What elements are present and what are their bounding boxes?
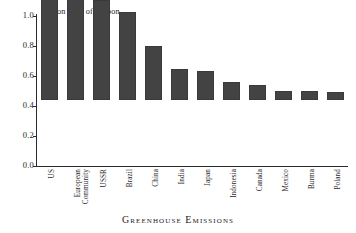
bar: [41, 0, 58, 100]
x-axis-tick-label: China: [153, 169, 161, 187]
bar: [67, 0, 84, 100]
bar: [145, 46, 162, 100]
x-axis-tick-label: USSR: [101, 169, 109, 187]
x-axis-tick-label: Mexico: [283, 169, 291, 192]
x-axis-tick-label: Poland: [335, 169, 343, 190]
x-axis-tick-label: Japan: [205, 169, 213, 186]
y-axis-tick-label: 0.8: [0, 41, 34, 50]
x-axis-tick-label: India: [179, 169, 187, 184]
bar: [275, 91, 292, 100]
y-axis-tick-label: 0.0: [0, 161, 34, 170]
x-axis-tick-label: Burma: [309, 169, 317, 189]
bar: [197, 71, 214, 100]
bar: [171, 69, 188, 101]
bar: [249, 85, 266, 100]
x-axis-tick-label-line: Canada: [256, 169, 264, 191]
x-axis-tick-label: Indonesia: [231, 169, 239, 198]
x-axis-tick-label-line: European: [74, 169, 82, 197]
x-axis-tick-label: US: [49, 169, 57, 178]
x-axis-tick-label-line: USSR: [100, 169, 108, 187]
x-axis-tick-label-group: USEuropeanCommunityUSSRBrazilChinaIndiaJ…: [36, 167, 348, 213]
x-axis-tick-label-line: Mexico: [282, 169, 290, 192]
x-axis-tick-label: EuropeanCommunity: [75, 169, 90, 204]
y-axis-tick-label: 0.2: [0, 131, 34, 140]
y-axis-tick-label: 0.6: [0, 71, 34, 80]
x-axis-tick-label-line: Poland: [334, 169, 342, 190]
x-axis-tick-label-line: Community: [83, 169, 91, 204]
y-axis-tick-label: 1.0: [0, 11, 34, 20]
bar: [119, 12, 136, 101]
x-axis-tick-label-line: US: [48, 169, 56, 178]
x-axis-tick-label-line: Brazil: [126, 169, 134, 187]
x-axis-tick-label-line: Japan: [204, 169, 212, 186]
y-axis-tick-label: 0.4: [0, 101, 34, 110]
x-axis-tick-label-line: Indonesia: [230, 169, 238, 198]
bar-series: [36, 0, 348, 167]
greenhouse-emissions-bar-chart: Billion Tons of Carbon 0.00.20.40.60.81.…: [0, 0, 356, 233]
x-axis-tick-label-line: China: [152, 169, 160, 187]
bar: [301, 91, 318, 100]
bar: [327, 92, 344, 100]
x-axis-tick-label: Brazil: [127, 169, 135, 187]
x-axis-tick-label-line: India: [178, 169, 186, 184]
x-axis-tick-label: Canada: [257, 169, 265, 191]
x-axis-tick-label-line: Burma: [308, 169, 316, 189]
bar: [93, 0, 110, 100]
x-axis-title: Greenhouse Emissions: [0, 214, 356, 225]
bar: [223, 82, 240, 100]
